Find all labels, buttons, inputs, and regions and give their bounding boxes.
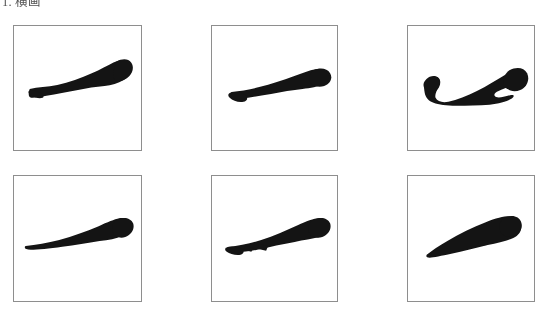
stroke-plate [211,25,338,151]
stroke-plate [13,175,142,302]
heng-stroke-variant-1-icon [14,26,141,150]
page-title: 1. 横画 [2,0,42,9]
stroke-plate [407,25,535,151]
heng-stroke-variant-6-icon [408,176,534,301]
stroke-plate [211,175,338,302]
stroke-plate [13,25,142,151]
heng-stroke-variant-3-icon [408,26,534,150]
heng-stroke-variant-4-icon [14,176,141,301]
heng-stroke-variant-5-icon [212,176,337,301]
scanned-page: 1. 横画 [0,0,547,329]
stroke-plate [407,175,535,302]
heng-stroke-variant-2-icon [212,26,337,150]
